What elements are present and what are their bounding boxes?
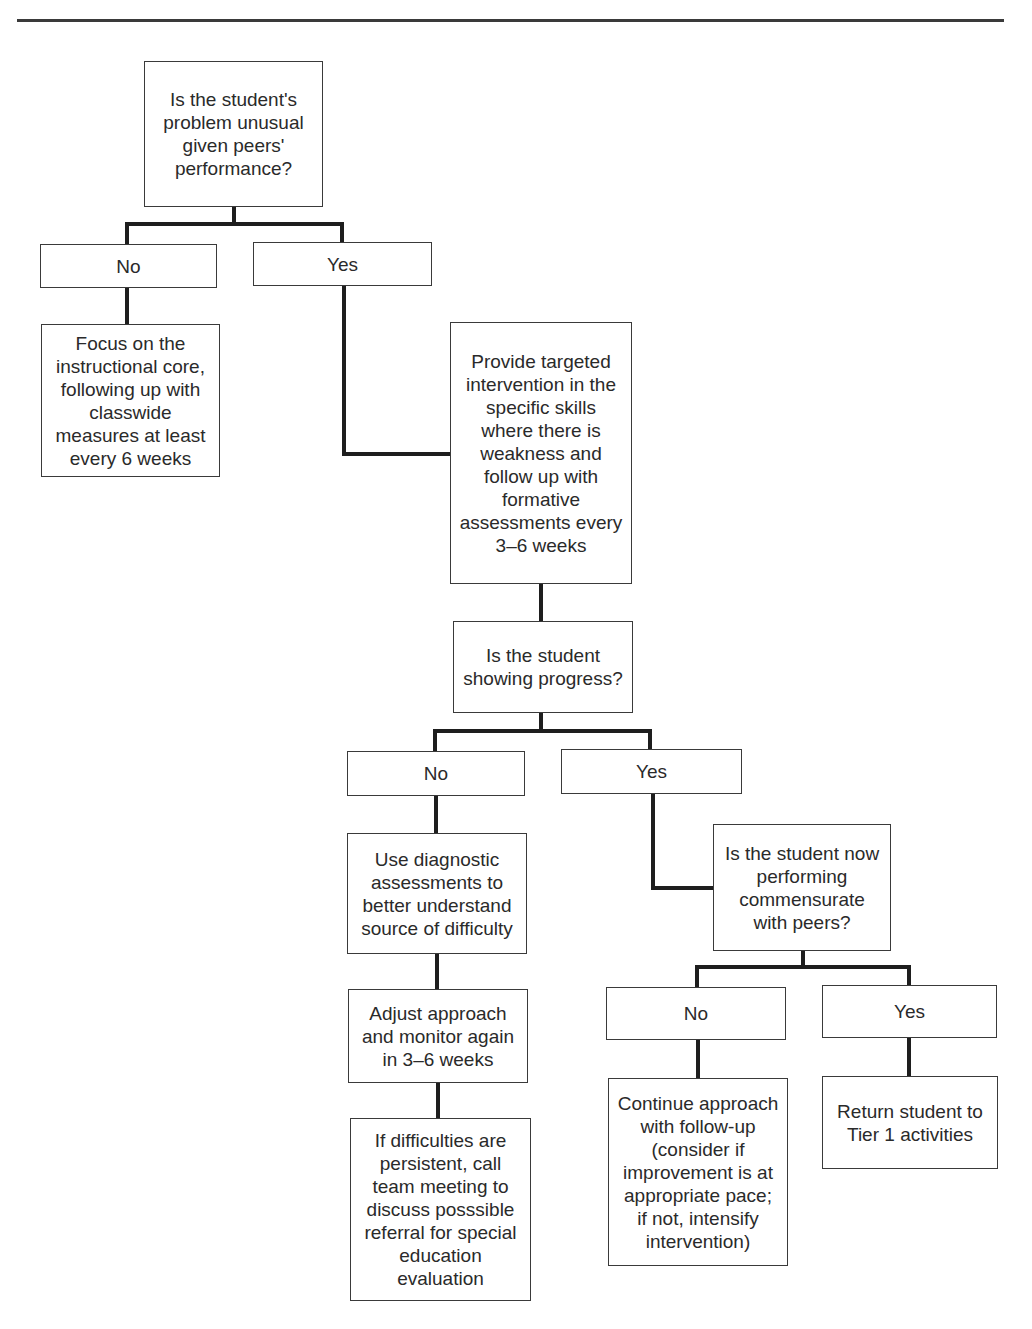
decision-showing-progress: Is the student showing progress? xyxy=(453,621,633,713)
action-focus-core: Focus on the instructional core, followi… xyxy=(41,324,220,477)
answer-yes-commensurate: Yes xyxy=(822,985,997,1038)
answer-no-progress: No xyxy=(347,751,525,796)
action-adjust-approach: Adjust approach and monitor again in 3–6… xyxy=(348,989,528,1083)
answer-yes-unusual: Yes xyxy=(253,242,432,286)
connector xyxy=(651,792,655,890)
header-rule xyxy=(17,19,1004,22)
decision-commensurate: Is the student now performing commensura… xyxy=(713,824,891,951)
connector xyxy=(695,965,699,989)
connector xyxy=(125,286,129,324)
decision-unusual-problem: Is the student's problem unusual given p… xyxy=(144,61,323,207)
connector xyxy=(539,583,543,623)
connector xyxy=(342,284,346,456)
answer-no-commensurate: No xyxy=(606,987,786,1040)
connector xyxy=(125,222,129,246)
action-referral: If difficulties are persistent, call tea… xyxy=(350,1118,531,1301)
connector xyxy=(342,452,454,456)
connector xyxy=(648,729,652,751)
answer-yes-progress: Yes xyxy=(561,749,742,794)
connector xyxy=(907,1035,911,1077)
connector xyxy=(434,795,438,833)
connector xyxy=(435,952,439,990)
connector xyxy=(436,1082,440,1120)
action-return-tier1: Return student to Tier 1 activities xyxy=(822,1076,998,1169)
connector xyxy=(433,729,652,733)
connector xyxy=(433,729,437,753)
connector xyxy=(907,965,911,987)
connector xyxy=(695,965,911,969)
connector xyxy=(651,886,716,890)
action-diagnostic: Use diagnostic assessments to better und… xyxy=(347,833,527,954)
answer-no-unusual: No xyxy=(40,244,217,288)
connector xyxy=(539,711,543,731)
connector xyxy=(125,222,344,226)
action-continue-approach: Continue approach with follow-up (consid… xyxy=(608,1078,788,1266)
connector xyxy=(340,222,344,244)
action-targeted-intervention: Provide targeted intervention in the spe… xyxy=(450,322,632,584)
connector xyxy=(696,1037,700,1079)
